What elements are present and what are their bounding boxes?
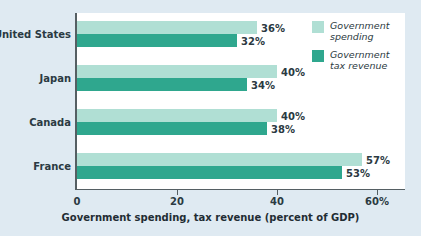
legend-swatch-icon bbox=[312, 50, 324, 62]
bar-value-label: 57% bbox=[366, 154, 390, 165]
bar-france-tax-revenue bbox=[77, 166, 342, 179]
chart-figure: 36%32%40%34%40%38%57%53% United StatesJa… bbox=[0, 0, 421, 236]
category-label-united-states: United States bbox=[0, 29, 71, 40]
bar-japan-spending bbox=[77, 65, 277, 78]
legend-item-government-spending: Government spending bbox=[312, 20, 408, 42]
bar-value-label: 32% bbox=[241, 35, 265, 46]
chart-legend: Government spendingGovernment tax revenu… bbox=[312, 20, 408, 78]
category-axis-labels: United StatesJapanCanadaFrance bbox=[0, 0, 71, 190]
bar-value-label: 38% bbox=[271, 123, 295, 134]
x-tick-mark bbox=[277, 190, 278, 195]
bar-value-label: 53% bbox=[346, 167, 370, 178]
category-label-france: France bbox=[33, 161, 71, 172]
x-axis-line bbox=[75, 189, 405, 190]
bar-canada-spending bbox=[77, 109, 277, 122]
x-tick-label: 40 bbox=[270, 196, 284, 207]
x-tick-label: 0 bbox=[74, 196, 81, 207]
legend-swatch-icon bbox=[312, 21, 324, 33]
bar-japan-tax-revenue bbox=[77, 78, 247, 91]
bar-value-label: 40% bbox=[281, 66, 305, 77]
bar-france-spending bbox=[77, 153, 362, 166]
bar-value-label: 36% bbox=[261, 22, 285, 33]
category-label-japan: Japan bbox=[40, 73, 72, 84]
bar-value-label: 40% bbox=[281, 110, 305, 121]
bar-united-states-spending bbox=[77, 21, 257, 34]
category-label-canada: Canada bbox=[29, 117, 71, 128]
y-axis-line bbox=[75, 13, 77, 190]
x-axis-title: Government spending, tax revenue (percen… bbox=[0, 212, 421, 223]
bar-value-label: 34% bbox=[251, 79, 275, 90]
x-tick-mark bbox=[377, 190, 378, 195]
bar-canada-tax-revenue bbox=[77, 122, 267, 135]
legend-label: Government spending bbox=[330, 20, 404, 42]
bar-united-states-tax-revenue bbox=[77, 34, 237, 47]
legend-label: Government tax revenue bbox=[330, 49, 404, 71]
x-tick-label: 60% bbox=[365, 196, 389, 207]
x-tick-mark bbox=[177, 190, 178, 195]
x-tick-label: 20 bbox=[170, 196, 184, 207]
legend-item-government-tax-revenue: Government tax revenue bbox=[312, 49, 408, 71]
